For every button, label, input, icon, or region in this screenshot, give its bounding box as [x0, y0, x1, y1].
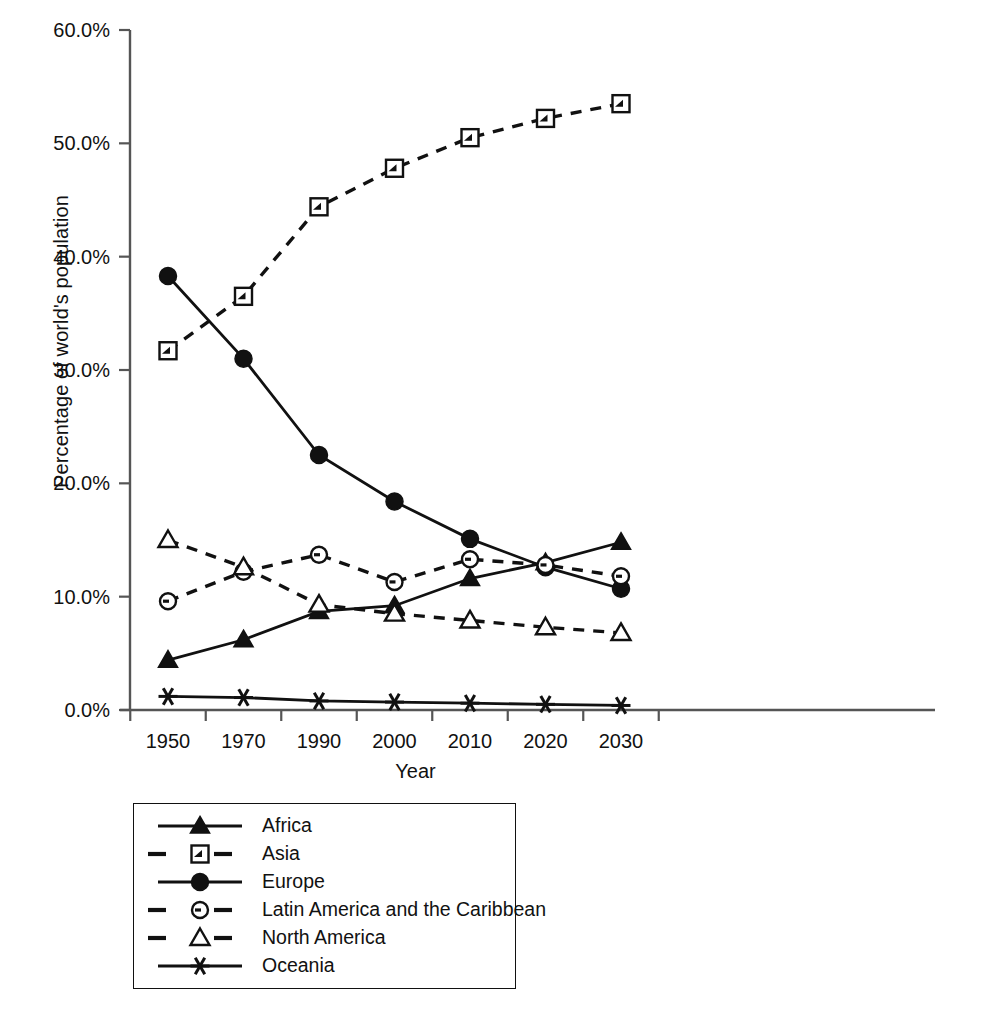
- legend-label: Europe: [256, 872, 325, 892]
- legend-key-open-triangle-icon: [144, 925, 256, 951]
- y-axis-tick-label: 20.0%: [53, 472, 110, 494]
- series-line: [168, 276, 621, 589]
- marker-open-triangle: [191, 929, 210, 946]
- chart-root: Percentage of world's population 0.0%10.…: [0, 0, 981, 1015]
- legend-item[interactable]: Europe: [134, 868, 515, 896]
- x-axis-title: Year: [0, 760, 981, 783]
- legend-label: Oceania: [256, 956, 335, 976]
- y-axis-tick-label: 60.0%: [53, 19, 110, 41]
- x-axis-tick-label: 1970: [221, 730, 266, 752]
- legend-item[interactable]: Oceania: [134, 952, 515, 980]
- marker-filled-circle: [235, 350, 252, 367]
- y-axis-tick-label: 30.0%: [53, 359, 110, 381]
- legend-key-asterisk-icon: [144, 953, 256, 979]
- marker-open-triangle: [159, 531, 178, 548]
- series-europe: [160, 267, 630, 597]
- legend-item[interactable]: North America: [134, 924, 515, 952]
- legend-item[interactable]: Latin America and the Caribbean: [134, 896, 515, 924]
- marker-filled-circle: [192, 874, 209, 891]
- x-axis-tick-label: 2030: [599, 730, 644, 752]
- x-axis-tick-label: 2020: [523, 730, 568, 752]
- series-africa: [159, 533, 631, 667]
- x-axis-tick-label: 2000: [372, 730, 417, 752]
- series-line: [168, 104, 621, 351]
- x-axis-title-text: Year: [395, 760, 435, 783]
- series-asia: [160, 95, 630, 359]
- y-axis-tick-label: 10.0%: [53, 586, 110, 608]
- marker-asterisk: [159, 688, 178, 704]
- legend-key-circle-dot-icon: [144, 897, 256, 923]
- marker-filled-circle: [311, 447, 328, 464]
- x-axis-tick-label: 1950: [146, 730, 191, 752]
- legend-label: Africa: [256, 816, 312, 836]
- marker-asterisk: [385, 694, 404, 710]
- marker-filled-circle: [160, 267, 177, 284]
- legend-key-filled-triangle-icon: [144, 813, 256, 839]
- legend-key-filled-circle-icon: [144, 869, 256, 895]
- marker-open-triangle: [310, 595, 329, 612]
- legend-item[interactable]: Asia: [134, 840, 515, 868]
- legend-label: Asia: [256, 844, 300, 864]
- marker-asterisk: [612, 697, 631, 713]
- x-axis-tick-label: 1990: [297, 730, 342, 752]
- marker-filled-triangle: [612, 533, 631, 550]
- line-chart-plot: 0.0%10.0%20.0%30.0%40.0%50.0%60.0%195019…: [0, 0, 981, 800]
- marker-filled-circle: [462, 530, 479, 547]
- marker-filled-circle: [386, 493, 403, 510]
- marker-asterisk: [191, 958, 210, 974]
- legend-key-square-dot-icon: [144, 841, 256, 867]
- legend-label: Latin America and the Caribbean: [256, 900, 546, 920]
- chart-legend: AfricaAsiaEuropeLatin America and the Ca…: [133, 803, 516, 989]
- legend-label: North America: [256, 928, 386, 948]
- marker-asterisk: [310, 693, 329, 709]
- y-axis-tick-label: 0.0%: [64, 699, 110, 721]
- y-axis-tick-label: 50.0%: [53, 132, 110, 154]
- legend-item[interactable]: Africa: [134, 812, 515, 840]
- marker-asterisk: [234, 689, 253, 705]
- y-axis-tick-label: 40.0%: [53, 246, 110, 268]
- x-axis-tick-label: 2010: [448, 730, 493, 752]
